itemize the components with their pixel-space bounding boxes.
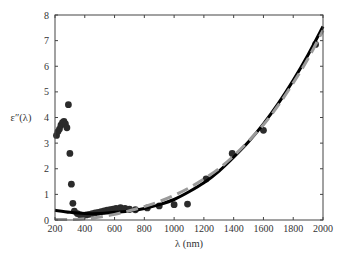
x-tick-label: 1000 — [164, 223, 184, 234]
x-tick-label: 800 — [137, 223, 152, 234]
y-tick-label: 4 — [44, 112, 49, 123]
series-layer — [53, 27, 323, 220]
y-axis-label: ε″(λ) — [11, 112, 32, 124]
y-tick-label: 0 — [44, 215, 49, 226]
x-tick-label: 1200 — [194, 223, 214, 234]
x-tick-label: 600 — [107, 223, 122, 234]
fit-line-solid — [55, 27, 323, 214]
x-tick-label: 1800 — [283, 223, 303, 234]
y-tick-label: 2 — [44, 163, 49, 174]
x-tick-label: 400 — [77, 223, 92, 234]
data-point — [171, 201, 178, 208]
x-tick-label: 2000 — [313, 223, 333, 234]
data-point — [66, 150, 73, 157]
y-tick-label: 8 — [44, 10, 49, 21]
y-tick-label: 5 — [44, 86, 49, 97]
y-tick-label: 3 — [44, 138, 49, 149]
data-point — [65, 101, 72, 108]
y-tick-label: 1 — [44, 189, 49, 200]
y-tick-label: 7 — [44, 35, 49, 46]
x-tick-label: 1600 — [253, 223, 273, 234]
x-axis-ticks: 200400600800100012001400160018002000 — [48, 15, 334, 234]
x-axis-label: λ (nm) — [175, 238, 204, 250]
data-point — [64, 124, 71, 131]
y-tick-label: 6 — [44, 61, 49, 72]
x-tick-label: 1400 — [224, 223, 244, 234]
data-point — [68, 181, 75, 188]
chart: 200400600800100012001400160018002000 012… — [0, 0, 350, 264]
y-axis-ticks: 012345678 — [44, 10, 323, 226]
x-tick-label: 200 — [48, 223, 63, 234]
axes-frame — [55, 15, 323, 220]
data-point — [69, 200, 76, 207]
data-point — [184, 201, 191, 208]
